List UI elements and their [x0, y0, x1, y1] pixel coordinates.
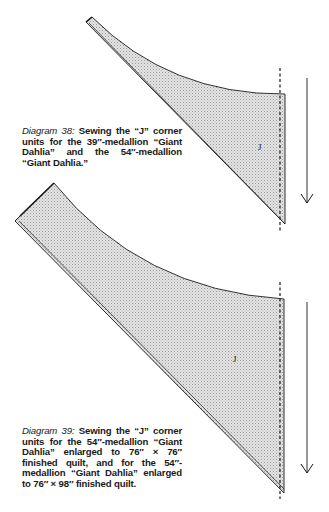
caption-lead: Diagram 38:	[22, 125, 74, 136]
piece-label-39: J	[233, 354, 237, 364]
caption-lead: Diagram 39:	[22, 425, 74, 436]
arrow-down-icon	[301, 78, 313, 203]
arrow-down-icon	[301, 302, 313, 473]
piece-label-38: J	[258, 142, 262, 152]
diagram-38-caption: Diagram 38: Sewing the “J” corner units …	[22, 126, 182, 168]
diagram-39-caption: Diagram 39: Sewing the “J” corner units …	[22, 426, 182, 490]
